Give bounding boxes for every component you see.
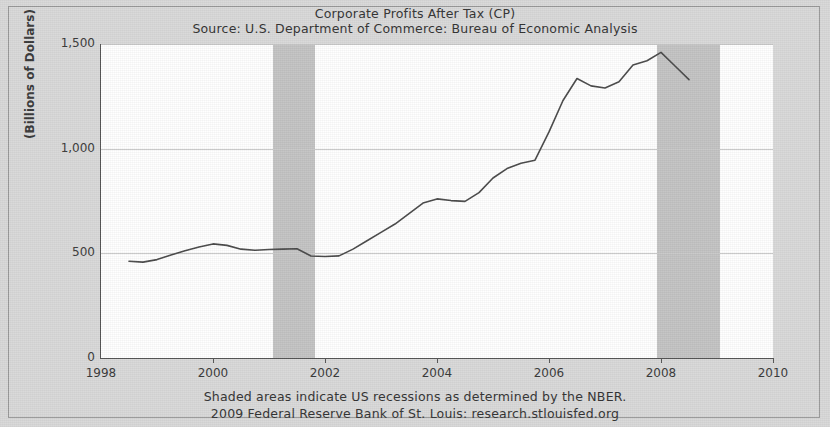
chart-title-block: Corporate Profits After Tax (CP) Source:…	[0, 6, 830, 36]
y-tick-label: 1,000	[29, 141, 95, 155]
x-tick-label: 1998	[66, 366, 136, 380]
x-tick-mark	[773, 358, 774, 363]
chart-title: Corporate Profits After Tax (CP)	[0, 6, 830, 21]
recession-note: Shaded areas indicate US recessions as d…	[0, 388, 830, 405]
data-line	[101, 44, 773, 358]
x-tick-label: 2002	[290, 366, 360, 380]
x-tick-label: 2000	[178, 366, 248, 380]
x-tick-mark	[325, 358, 326, 363]
source-note: 2009 Federal Reserve Bank of St. Louis: …	[0, 405, 830, 422]
x-tick-label: 2006	[514, 366, 584, 380]
x-tick-mark	[549, 358, 550, 363]
y-axis-label: (Billions of Dollars)	[23, 9, 37, 139]
chart-footer: Shaded areas indicate US recessions as d…	[0, 388, 830, 422]
x-tick-label: 2010	[738, 366, 808, 380]
x-tick-label: 2008	[626, 366, 696, 380]
x-tick-label: 2004	[402, 366, 472, 380]
x-tick-mark	[437, 358, 438, 363]
y-tick-label: 1,500	[29, 36, 95, 50]
plot-area: (Billions of Dollars) 05001,0001,500 199…	[100, 44, 773, 359]
x-tick-mark	[661, 358, 662, 363]
chart-subtitle: Source: U.S. Department of Commerce: Bur…	[0, 21, 830, 36]
y-tick-label: 0	[29, 350, 95, 364]
x-tick-mark	[213, 358, 214, 363]
y-tick-label: 500	[29, 245, 95, 259]
